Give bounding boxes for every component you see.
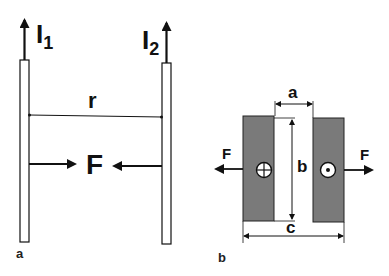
force-label-left: F bbox=[222, 145, 231, 162]
force-label: F bbox=[86, 149, 103, 180]
height-label: b bbox=[297, 157, 307, 176]
panel-a: I1 I2 r F a bbox=[16, 19, 171, 261]
total-width-label: c bbox=[286, 218, 295, 237]
gap-label: a bbox=[288, 83, 298, 102]
separation-dimension-line bbox=[29, 115, 162, 117]
conductor-2 bbox=[162, 63, 171, 244]
panel-a-label: a bbox=[16, 246, 24, 261]
panel-b: a b c F F b bbox=[216, 83, 372, 265]
current-1-label: I1 bbox=[36, 19, 53, 53]
panel-b-label: b bbox=[218, 250, 226, 265]
force-label-right: F bbox=[360, 146, 369, 163]
separation-label: r bbox=[88, 88, 97, 113]
conductor-1 bbox=[20, 60, 29, 242]
current-2-label: I2 bbox=[142, 25, 159, 59]
figure-canvas: I1 I2 r F a a bbox=[0, 0, 389, 276]
